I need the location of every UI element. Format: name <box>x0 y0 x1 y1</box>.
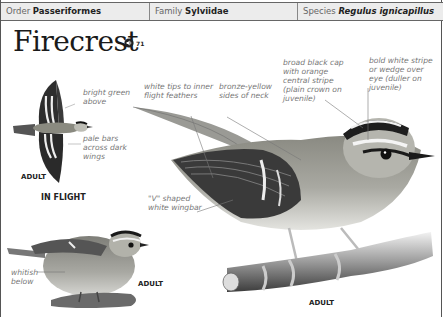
caption-perched-adult: ADULT <box>138 280 163 288</box>
annotation-v-wingbar: "V" shaped white wingbar <box>148 194 208 212</box>
field-guide-page: Order Passeriformes Family Sylviidae Spe… <box>0 0 442 317</box>
annotation-bright-green: bright green above <box>83 88 131 106</box>
annotation-bronze-yellow: bronze-yellow sides of neck <box>219 82 279 100</box>
annotation-pale-bars: pale bars across dark wings <box>83 134 133 161</box>
caption-flight-adult: ADULT <box>21 173 46 181</box>
annotation-white-tips: white tips to inner flight feathers <box>144 82 224 100</box>
annotation-whitish-below: whitish below <box>11 268 45 286</box>
caption-main-adult: ADULT <box>309 299 334 307</box>
illustrations <box>1 0 443 317</box>
caption-in-flight: IN FLIGHT <box>41 193 86 202</box>
main-bird-illustration <box>133 107 435 262</box>
annotation-black-cap: broad black cap with orange central stri… <box>283 58 353 103</box>
flying-bird-illustration <box>13 80 93 183</box>
branch-illustration <box>223 232 433 292</box>
annotation-white-stripe: bold white stripe or wedge over eye (dul… <box>369 56 439 92</box>
